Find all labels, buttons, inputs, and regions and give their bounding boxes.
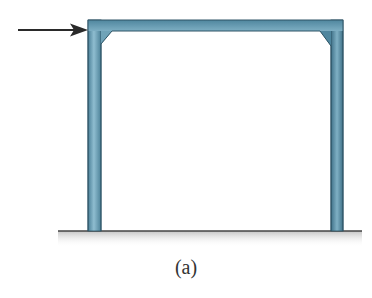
right-column — [331, 20, 343, 231]
figure-caption: (a) — [0, 256, 372, 279]
portal-frame-diagram — [0, 0, 372, 298]
ground-shadow — [58, 231, 362, 247]
top-beam — [88, 20, 343, 46]
arrow-right-icon — [18, 24, 88, 37]
left-column — [88, 20, 101, 231]
portal-frame — [88, 20, 343, 231]
frame-outline — [88, 20, 343, 231]
ground — [58, 231, 362, 247]
